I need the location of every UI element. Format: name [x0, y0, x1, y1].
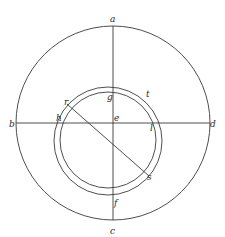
chord-rs — [67, 104, 149, 176]
label-d: d — [210, 119, 216, 129]
label-g: g — [107, 92, 113, 102]
label-c: c — [110, 226, 115, 236]
label-h: h — [56, 113, 62, 123]
label-t: t — [146, 89, 150, 99]
diagram-canvas: a b c d e f g h l r s t — [0, 0, 225, 237]
label-s: s — [147, 172, 152, 182]
inner-circle-large — [54, 87, 162, 195]
label-b: b — [9, 119, 15, 129]
label-r: r — [64, 97, 69, 107]
label-l: l — [150, 123, 153, 133]
label-e: e — [114, 113, 119, 123]
label-f: f — [113, 198, 119, 208]
geometric-diagram: a b c d e f g h l r s t — [0, 0, 225, 237]
label-a: a — [110, 14, 115, 24]
